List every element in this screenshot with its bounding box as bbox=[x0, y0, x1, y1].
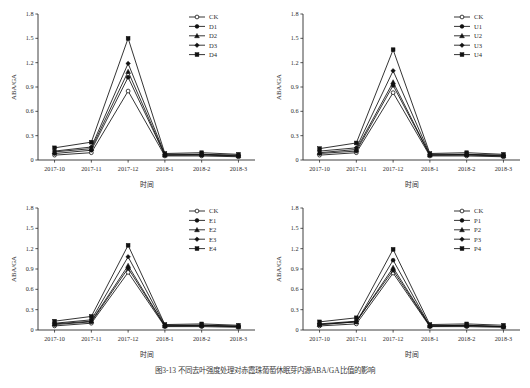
legend-item-e4[interactable]: E4 bbox=[189, 245, 217, 252]
data-point-marker-filled-square bbox=[391, 48, 395, 52]
data-point-marker-filled-triangle bbox=[126, 69, 131, 73]
chart-axes bbox=[303, 14, 520, 160]
legend-item-e1[interactable]: E1 bbox=[189, 217, 216, 224]
legend-item-d2[interactable]: D2 bbox=[189, 32, 217, 39]
series-line-d1 bbox=[55, 77, 239, 156]
y-axis-tick-label: 0 bbox=[295, 156, 298, 163]
y-axis-tick-label: 1.5 bbox=[26, 224, 34, 231]
data-point-marker-filled-square bbox=[195, 53, 199, 57]
legend-label: D3 bbox=[209, 42, 218, 49]
data-point-marker-filled-square bbox=[163, 152, 167, 156]
data-point-marker-filled-diamond bbox=[391, 68, 396, 73]
data-point-marker-filled-square bbox=[89, 140, 93, 144]
data-point-marker-filled-circle bbox=[126, 75, 130, 79]
legend-label: P2 bbox=[474, 226, 481, 233]
legend-label: P4 bbox=[474, 245, 482, 252]
x-axis-tick-label: 2017-12 bbox=[383, 335, 404, 342]
chart-axes bbox=[303, 208, 520, 330]
series-p3 bbox=[317, 268, 505, 329]
series-u4 bbox=[318, 48, 506, 156]
data-point-marker-filled-square bbox=[53, 319, 57, 323]
legend-item-ck[interactable]: CK bbox=[454, 13, 483, 20]
data-point-marker-filled-square bbox=[237, 323, 241, 327]
legend-item-d3[interactable]: D3 bbox=[189, 42, 218, 49]
x-axis-tick-label: 2018-1 bbox=[156, 335, 174, 342]
data-point-marker-filled-square bbox=[460, 247, 464, 251]
data-point-marker-filled-square bbox=[318, 147, 322, 151]
x-axis-tick-label: 2018-2 bbox=[193, 335, 211, 342]
y-axis-tick-label: 1.8 bbox=[291, 204, 299, 211]
legend-item-ck[interactable]: CK bbox=[189, 13, 218, 20]
x-axis-title: 时间 bbox=[140, 180, 154, 189]
y-axis-tick-label: 0.6 bbox=[26, 107, 34, 114]
data-point-marker-filled-diamond bbox=[195, 237, 200, 242]
legend-item-e3[interactable]: E3 bbox=[189, 236, 217, 243]
data-point-marker-filled-triangle bbox=[391, 80, 396, 84]
data-point-marker-open-circle bbox=[460, 15, 464, 19]
legend-item-e2[interactable]: E2 bbox=[189, 226, 216, 233]
x-axis-tick-label: 2018-1 bbox=[421, 165, 439, 172]
series-group bbox=[317, 48, 506, 159]
y-axis-tick-label: 1.8 bbox=[26, 10, 34, 17]
x-axis-tick-label: 2018-3 bbox=[495, 165, 513, 172]
legend-item-p2[interactable]: P2 bbox=[454, 226, 481, 233]
data-point-marker-filled-square bbox=[502, 152, 506, 156]
y-axis-tick-label: 0.9 bbox=[26, 265, 34, 272]
data-point-marker-filled-circle bbox=[391, 258, 395, 262]
data-point-marker-filled-square bbox=[200, 322, 204, 326]
data-point-marker-filled-square bbox=[163, 323, 167, 327]
series-u1 bbox=[318, 83, 506, 157]
series-line-p1 bbox=[320, 260, 504, 326]
y-axis-tick-label: 1.5 bbox=[291, 34, 299, 41]
line-chart-svg-d: 00.30.60.91.21.51.82017-102017-112017-12… bbox=[0, 0, 265, 194]
y-axis-title: ABA/GA bbox=[275, 74, 282, 100]
y-axis-tick-label: 0.6 bbox=[26, 285, 34, 292]
chart-axes bbox=[38, 14, 255, 160]
legend-item-u4[interactable]: U4 bbox=[454, 51, 483, 58]
y-axis-tick-label: 1.2 bbox=[291, 59, 299, 66]
legend-item-ck[interactable]: CK bbox=[454, 207, 483, 214]
legend-item-ck[interactable]: CK bbox=[189, 207, 218, 214]
legend-item-d4[interactable]: D4 bbox=[189, 51, 218, 58]
series-line-ck bbox=[55, 91, 239, 157]
line-chart-svg-e: 00.30.60.91.21.51.82017-102017-112017-12… bbox=[0, 194, 265, 364]
data-point-marker-filled-square bbox=[428, 152, 432, 156]
legend-item-u3[interactable]: U3 bbox=[454, 42, 483, 49]
y-axis-tick-label: 0.3 bbox=[291, 306, 299, 313]
line-chart-svg-u: 00.30.60.91.21.51.82017-102017-112017-12… bbox=[265, 0, 530, 194]
data-point-marker-filled-square bbox=[354, 141, 358, 145]
x-axis-title: 时间 bbox=[405, 350, 419, 359]
series-line-d3 bbox=[55, 63, 239, 155]
legend-item-p4[interactable]: P4 bbox=[454, 245, 482, 252]
x-axis-tick-label: 2017-11 bbox=[346, 165, 366, 172]
data-point-marker-open-circle bbox=[195, 209, 199, 213]
y-axis-title: ABA/GA bbox=[275, 256, 282, 282]
y-axis-tick-label: 1.8 bbox=[26, 204, 34, 211]
legend-label: P1 bbox=[474, 217, 481, 224]
legend-label: CK bbox=[474, 13, 483, 20]
y-axis-tick-label: 0.9 bbox=[26, 83, 34, 90]
data-point-marker-filled-diamond bbox=[195, 43, 200, 48]
y-axis-tick-label: 1.5 bbox=[26, 34, 34, 41]
legend-item-u1[interactable]: U1 bbox=[454, 23, 482, 30]
figure-panel-grid: 00.30.60.91.21.51.82017-102017-112017-12… bbox=[0, 0, 530, 364]
data-point-marker-filled-square bbox=[318, 320, 322, 324]
series-line-u1 bbox=[320, 85, 504, 156]
x-axis-tick-label: 2018-2 bbox=[458, 335, 476, 342]
legend-label: CK bbox=[474, 207, 483, 214]
legend-item-u2[interactable]: U2 bbox=[454, 32, 482, 39]
y-axis-tick-label: 0.6 bbox=[291, 107, 299, 114]
data-point-marker-filled-square bbox=[460, 53, 464, 57]
data-point-marker-filled-triangle bbox=[126, 263, 131, 267]
series-line-ck bbox=[55, 272, 239, 327]
y-axis-tick-label: 1.2 bbox=[26, 59, 34, 66]
x-axis-tick-label: 2017-12 bbox=[118, 165, 139, 172]
legend-label: U4 bbox=[474, 51, 483, 58]
y-axis-tick-label: 0.6 bbox=[291, 285, 299, 292]
legend-label: D2 bbox=[209, 32, 217, 39]
legend-item-d1[interactable]: D1 bbox=[189, 23, 217, 30]
series-ck bbox=[318, 271, 506, 329]
y-axis-tick-label: 0.9 bbox=[291, 265, 299, 272]
legend-item-p1[interactable]: P1 bbox=[454, 217, 481, 224]
legend-item-p3[interactable]: P3 bbox=[454, 236, 482, 243]
